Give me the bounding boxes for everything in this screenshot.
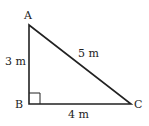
triangle-svg: A B C 3 m 5 m 4 m [0, 0, 149, 126]
vertex-label-c: C [134, 98, 142, 111]
right-angle-marker [29, 93, 40, 104]
side-label-bc: 4 m [68, 108, 89, 121]
side-label-ab: 3 m [5, 55, 26, 68]
triangle-diagram: A B C 3 m 5 m 4 m [0, 0, 149, 126]
vertex-label-b: B [15, 98, 23, 111]
side-label-ac: 5 m [78, 47, 99, 60]
vertex-label-a: A [23, 9, 33, 22]
triangle-shape [29, 25, 131, 104]
